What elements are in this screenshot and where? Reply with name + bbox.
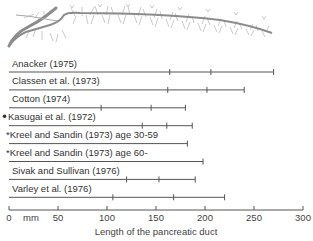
row-label: Classen et al. (1973) (12, 75, 100, 86)
range-bar-row: Kasugai et al. (1972) (3, 111, 193, 129)
range-bar-row: Classen et al. (1973) (9, 75, 244, 93)
range-bar-row: Cotton (1974) (9, 93, 185, 111)
axis-tick-label: 100 (99, 212, 115, 223)
pancreatic-duct-illustration (9, 4, 272, 46)
x-axis: 050100150200250300 mm Length of the panc… (6, 206, 311, 237)
row-label: Kasugai et al. (1972) (8, 111, 96, 122)
axis-tick-label: 150 (148, 212, 164, 223)
row-label: Varley et al. (1976) (12, 183, 92, 194)
bullet-marker-icon (3, 114, 7, 118)
row-label: *Kreel and Sandin (1973) age 60- (6, 147, 148, 158)
row-label: Anacker (1975) (12, 58, 77, 69)
row-label: *Kreel and Sandin (1973) age 30-59 (6, 129, 158, 140)
range-bar-row: Varley et al. (1976) (9, 183, 225, 201)
range-bar-row: Anacker (1975) (9, 58, 274, 76)
axis-tick-label: 200 (197, 212, 213, 223)
x-axis-title: Length of the pancreatic duct (95, 226, 218, 237)
row-label: Cotton (1974) (12, 93, 70, 104)
axis-unit-label: mm (23, 212, 39, 223)
axis-tick-label: 300 (295, 212, 311, 223)
axis-tick-label: 250 (246, 212, 262, 223)
row-label: Sivak and Sullivan (1976) (12, 165, 120, 176)
axis-tick-label: 50 (53, 212, 64, 223)
range-bar-row: *Kreel and Sandin (1973) age 30-59 (6, 129, 187, 147)
axis-tick-label: 0 (6, 212, 11, 223)
range-bar-row: Sivak and Sullivan (1976) (9, 165, 195, 183)
range-bars: Anacker (1975)Classen et al. (1973)Cotto… (3, 58, 274, 201)
range-bar-row: *Kreel and Sandin (1973) age 60- (6, 147, 203, 165)
chart: Anacker (1975)Classen et al. (1973)Cotto… (0, 0, 313, 241)
